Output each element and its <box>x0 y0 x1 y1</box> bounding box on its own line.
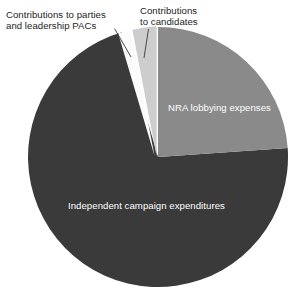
slice-callout-label-candidates: Contributions to candidates <box>140 5 224 28</box>
pie-slice-nra-lobbying[interactable] <box>158 27 288 157</box>
slice-inner-label-independent-expenditures: Independent campaign expenditures <box>68 200 225 211</box>
pie-chart: Contributions to parties and leadership … <box>0 0 294 296</box>
pie-chart-canvas <box>0 0 294 296</box>
slice-inner-label-nra-lobbying: NRA lobbying expenses <box>168 102 271 113</box>
slice-callout-label-parties-pacs: Contributions to parties and leadership … <box>6 9 138 32</box>
